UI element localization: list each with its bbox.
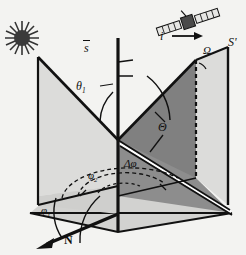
axis-tick-upper: [118, 60, 133, 62]
diagram-canvas: [0, 0, 246, 255]
sun-starburst-icon: [5, 21, 39, 55]
sensor-plane-right: [196, 47, 228, 205]
view-direction-arrow-head: [194, 32, 203, 40]
label-north: N: [64, 234, 73, 246]
label-azimuth-difference: Δφ: [124, 158, 137, 169]
label-sun-vector: s: [84, 42, 89, 54]
label-sensor-plane: S': [228, 36, 237, 48]
label-incidence-angle: θ1: [76, 80, 86, 95]
label-azimuth-one: φ1: [41, 205, 51, 219]
label-azimuth-two: φ2: [88, 170, 98, 184]
satellite-icon: [154, 0, 221, 38]
theta1-leader: [100, 84, 113, 86]
label-omega: Ω: [203, 45, 211, 56]
label-view-vector: i: [160, 30, 163, 42]
geometry-diagram: s θ1 i Ω S' Θ Δφ φ2 φ1 N: [0, 0, 246, 255]
theta1-arc: [100, 92, 113, 121]
north-arrow-head: [36, 238, 54, 249]
label-scattering-angle: Θ: [158, 121, 167, 133]
